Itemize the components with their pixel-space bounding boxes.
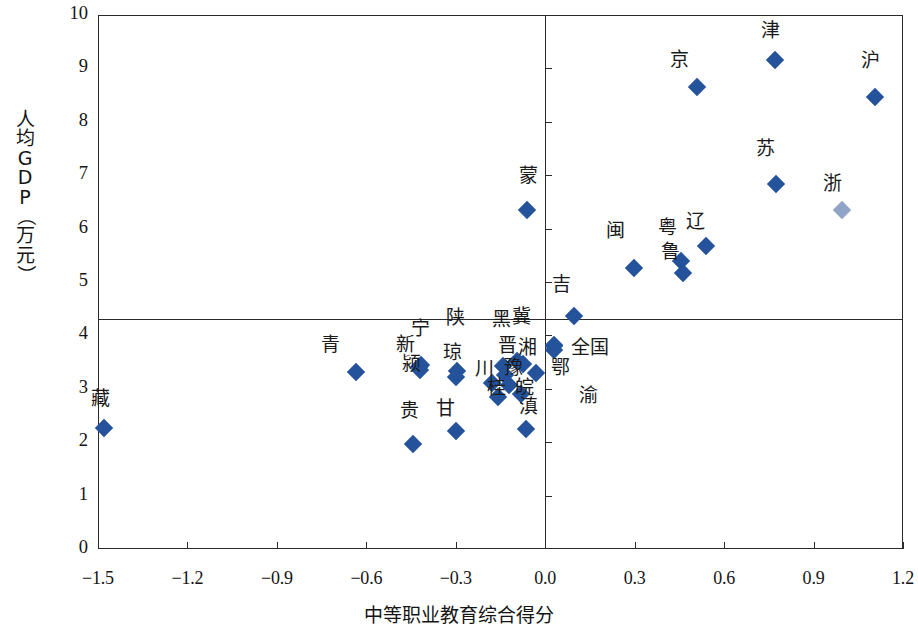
x-tick — [98, 542, 99, 549]
scatter-point-label: 桂 — [487, 371, 506, 398]
y-tick-label: 8 — [44, 110, 88, 131]
y-tick-label: 1 — [44, 484, 88, 505]
x-tick-label: −0.9 — [242, 568, 312, 589]
scatter-point-label: 鲁 — [661, 235, 680, 262]
x-tick — [545, 542, 546, 549]
y-tick — [545, 442, 552, 443]
scatter-point-label: 全国 — [571, 332, 609, 359]
y-tick-label: 4 — [44, 323, 88, 344]
y-tick — [545, 175, 552, 176]
x-tick — [635, 542, 636, 549]
x-tick-label: 0.6 — [689, 568, 759, 589]
y-tick-label: 3 — [44, 377, 88, 398]
chart-canvas: −1.5−1.2−0.9−0.6−0.30.00.30.60.91.2 0123… — [0, 0, 918, 641]
y-tick-label: 10 — [44, 3, 88, 24]
y-tick — [545, 335, 552, 336]
y-axis-title: 人均GDP（万元） — [10, 110, 40, 284]
scatter-point-label: 浙 — [823, 167, 842, 194]
y-tick-label: 6 — [44, 217, 88, 238]
x-tick — [366, 542, 367, 549]
scatter-point-label: 沪 — [861, 44, 880, 71]
scatter-point-label: 闽 — [606, 214, 625, 241]
x-tick — [814, 542, 815, 549]
scatter-point-label: 宁 — [411, 312, 430, 339]
scatter-point-label: 渝 — [579, 380, 598, 407]
x-tick-label: −0.3 — [421, 568, 491, 589]
scatter-point-label: 藏 — [91, 383, 110, 410]
y-tick-label: 5 — [44, 270, 88, 291]
scatter-point-label: 苏 — [756, 132, 775, 159]
scatter-point-label: 贵 — [400, 395, 419, 422]
scatter-point-label: 蒙 — [519, 159, 538, 186]
x-tick-label: 0.9 — [779, 568, 849, 589]
x-tick-label: 0.0 — [510, 568, 580, 589]
scatter-point-label: 琼 — [443, 337, 462, 364]
y-tick-label: 9 — [44, 56, 88, 77]
x-tick — [903, 542, 904, 549]
y-axis-title-char: 均 — [10, 129, 40, 148]
scatter-point-label: 津 — [761, 15, 780, 42]
y-tick — [545, 122, 552, 123]
scatter-point-label: 吉 — [552, 269, 571, 296]
x-tick-label: 1.2 — [868, 568, 918, 589]
plot-frame — [98, 15, 903, 549]
y-tick-label: 7 — [44, 163, 88, 184]
scatter-point-label: 京 — [670, 43, 689, 70]
x-tick — [724, 542, 725, 549]
scatter-point-label: 湘 — [518, 332, 537, 359]
y-tick — [545, 229, 552, 230]
y-tick — [545, 68, 552, 69]
x-tick-label: −1.5 — [63, 568, 133, 589]
scatter-point-label: 冀 — [512, 301, 531, 328]
y-axis-title-char: D — [10, 168, 40, 187]
y-axis-title-char: （ — [15, 202, 34, 232]
x-tick — [456, 542, 457, 549]
x-tick-label: 0.3 — [600, 568, 670, 589]
scatter-point-label: 颍 — [402, 348, 421, 375]
scatter-point-label: 黑 — [492, 303, 511, 330]
x-tick-label: −1.2 — [152, 568, 222, 589]
x-axis-title: 中等职业教育综合得分 — [0, 600, 918, 627]
y-tick — [545, 496, 552, 497]
scatter-point-label: 辽 — [686, 205, 705, 232]
y-tick — [545, 389, 552, 390]
y-axis-title-char: ） — [15, 260, 34, 290]
scatter-point-label: 陕 — [446, 302, 465, 329]
scatter-point-label: 甘 — [436, 392, 455, 419]
x-tick-label: −0.6 — [331, 568, 401, 589]
scatter-point-label: 鄂 — [551, 351, 570, 378]
y-tick-label: 2 — [44, 430, 88, 451]
x-tick — [187, 542, 188, 549]
scatter-point-label: 滇 — [519, 390, 538, 417]
scatter-point-label: 青 — [321, 328, 340, 355]
x-tick — [277, 542, 278, 549]
y-tick-label: 0 — [44, 537, 88, 558]
